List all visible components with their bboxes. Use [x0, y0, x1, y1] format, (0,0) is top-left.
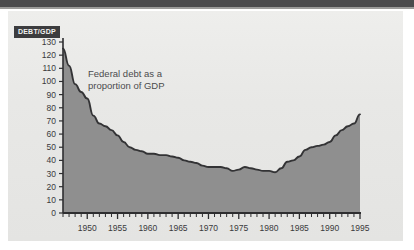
chart-canvas: 0102030405060708090100110120130 19501955…	[0, 0, 414, 250]
x-tick-labels-group: 1950195519601965197019751980198519901995	[78, 223, 370, 233]
y-tick-label: 120	[42, 50, 56, 60]
y-tick-label: 80	[47, 103, 57, 113]
y-tick-label: 20	[47, 182, 57, 192]
y-axis-group	[59, 38, 63, 213]
y-axis-title: DEBT/GDP	[14, 26, 60, 38]
x-tick-label: 1965	[169, 223, 188, 233]
x-tick-label: 1960	[138, 223, 157, 233]
y-tick-label: 70	[47, 116, 57, 126]
x-tick-label: 1985	[290, 223, 309, 233]
y-tick-label: 40	[47, 155, 57, 165]
y-tick-label: 10	[47, 195, 57, 205]
x-tick-label: 1975	[229, 223, 248, 233]
y-tick-label: 50	[47, 142, 57, 152]
y-tick-label: 110	[42, 63, 56, 73]
debt-gdp-area-chart: 0102030405060708090100110120130 19501955…	[0, 0, 414, 250]
x-tick-label: 1970	[199, 223, 218, 233]
chart-figure: 0102030405060708090100110120130 19501955…	[0, 0, 414, 250]
x-tick-label: 1990	[320, 223, 339, 233]
x-tick-label: 1995	[351, 223, 370, 233]
y-tick-labels-group: 0102030405060708090100110120130	[42, 37, 56, 218]
x-axis-group	[63, 213, 361, 219]
y-tick-label: 90	[47, 90, 57, 100]
y-tick-label: 130	[42, 37, 56, 47]
y-tick-label: 100	[42, 76, 56, 86]
x-tick-label: 1980	[260, 223, 279, 233]
x-tick-label: 1955	[108, 223, 127, 233]
y-tick-label: 60	[47, 129, 57, 139]
y-tick-label: 30	[47, 169, 57, 179]
y-tick-label: 0	[51, 208, 56, 218]
chart-annotation: Federal debt as a proportion of GDP	[88, 68, 208, 92]
x-tick-label: 1950	[78, 223, 97, 233]
